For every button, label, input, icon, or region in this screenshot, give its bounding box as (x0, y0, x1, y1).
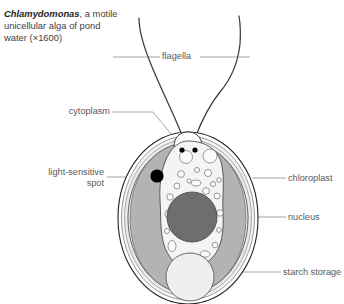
basal-body-right (192, 147, 197, 152)
chlamydomonas-diagram (0, 0, 344, 304)
label-starch-storage: starch storage (283, 267, 341, 279)
label-cytoplasm: cytoplasm (0, 106, 110, 118)
label-light-sensitive-spot-line1: light-sensitive (0, 167, 104, 179)
flagella-group (139, 16, 240, 138)
flagellum-right (195, 16, 240, 138)
flagellum-left (139, 18, 183, 138)
label-nucleus: nucleus (288, 212, 320, 224)
nucleus-body (167, 192, 217, 242)
starch-storage-body (166, 253, 214, 301)
label-light-sensitive-spot-line2: spot (0, 178, 104, 190)
basal-body-left (179, 147, 184, 152)
light-sensitive-spot-body (150, 169, 163, 182)
label-flagella: flagella (162, 51, 191, 63)
cell-body (118, 132, 258, 304)
label-chloroplast: chloroplast (288, 173, 332, 185)
